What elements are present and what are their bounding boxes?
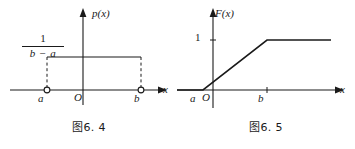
figure-6-4: 1 b − a p(x) O a b x 图6. 4 <box>0 0 178 149</box>
origin-label-left: O <box>74 92 82 103</box>
plot-area-cdf: F(x) 1 a O b x <box>177 0 355 120</box>
origin-label-right: O <box>202 92 210 103</box>
figure-pair-container: 1 b − a p(x) O a b x 图6. 4 <box>0 0 355 149</box>
x-tick-label-a-left: a <box>38 93 44 104</box>
y-axis <box>210 8 217 108</box>
figure-caption-6-5: 图6. 5 <box>177 118 355 134</box>
density-function-chart <box>0 0 178 120</box>
cdf-curve <box>177 40 331 90</box>
y-axis-label-px: p(x) <box>92 8 110 19</box>
y-axis-label-fx: F(x) <box>215 8 234 19</box>
y-axis-arrowhead <box>80 8 87 17</box>
y-tick-label-one: 1 <box>195 32 201 43</box>
fraction-denominator: b − a <box>20 47 66 60</box>
x-tick-label-a-right: a <box>190 93 196 104</box>
x-axis-label-right: x <box>340 84 345 95</box>
x-tick-label-b-right: b <box>258 93 264 104</box>
fraction-numerator: 1 <box>20 33 66 46</box>
figure-6-5: F(x) 1 a O b x 图6. 5 <box>177 0 355 149</box>
plateau-height-label: 1 b − a <box>20 33 66 59</box>
x-axis-label-left: x <box>163 84 168 95</box>
open-marker-a <box>44 87 50 93</box>
x-tick-label-b-left: b <box>134 93 140 104</box>
figure-caption-6-4: 图6. 4 <box>0 118 178 134</box>
plot-area-density: 1 b − a p(x) O a b x <box>0 0 178 120</box>
